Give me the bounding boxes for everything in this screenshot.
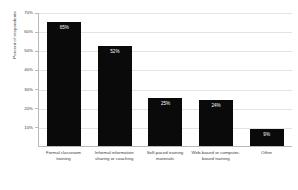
bars-container: 65%52%25%24%9%	[39, 13, 292, 146]
x-axis-category-label: Other	[241, 150, 292, 188]
y-axis-tick-label: 20%	[24, 105, 33, 113]
bar-value-label: 65%	[60, 25, 69, 31]
bar[interactable]: 24%	[199, 100, 233, 146]
y-axis-tick-label: 50%	[24, 47, 33, 55]
y-axis-tick-label: 30%	[24, 86, 33, 94]
y-axis-tick: 10%	[0, 124, 38, 132]
bar-slot: 52%	[90, 13, 141, 146]
y-axis-tick: 40%	[0, 66, 38, 74]
y-axis-tick-label: 40%	[24, 66, 33, 74]
x-axis-category-label: Self-paced training materials	[140, 150, 191, 188]
y-axis-tick-label: 10%	[24, 124, 33, 132]
y-axis-tick: 30%	[0, 86, 38, 94]
bar[interactable]: 52%	[98, 46, 132, 146]
bar[interactable]: 9%	[250, 129, 284, 146]
bar-value-label: 52%	[110, 49, 119, 55]
bar-value-label: 9%	[263, 132, 270, 138]
bar-value-label: 25%	[161, 101, 170, 107]
bar[interactable]: 25%	[148, 98, 182, 146]
x-axis-category-label: Formal classroom training	[38, 150, 89, 188]
y-axis-tick: 60%	[0, 28, 38, 36]
x-axis-labels: Formal classroom trainingInformal inform…	[38, 150, 292, 188]
y-axis-tick: 70%	[0, 9, 38, 17]
bar[interactable]: 65%	[47, 22, 81, 146]
y-axis-tick: 20%	[0, 105, 38, 113]
bar-chart: Percent of respondents 70%60%50%40%30%20…	[0, 0, 298, 190]
bar-value-label: 24%	[211, 103, 220, 109]
bar-slot: 25%	[140, 13, 191, 146]
bar-slot: 65%	[39, 13, 90, 146]
y-axis-tick-label: 60%	[24, 28, 33, 36]
x-axis-category-label: Informal information sharing or coaching	[89, 150, 140, 188]
y-axis-tick-label: 70%	[24, 9, 33, 17]
x-axis-category-label: Web-based or computer-based training	[190, 150, 241, 188]
plot-area: 65%52%25%24%9%	[38, 13, 292, 147]
y-axis-tick: 50%	[0, 47, 38, 55]
y-axis-ticks: 70%60%50%40%30%20%10%	[0, 13, 38, 147]
bar-slot: 9%	[241, 13, 292, 146]
bar-slot: 24%	[191, 13, 242, 146]
